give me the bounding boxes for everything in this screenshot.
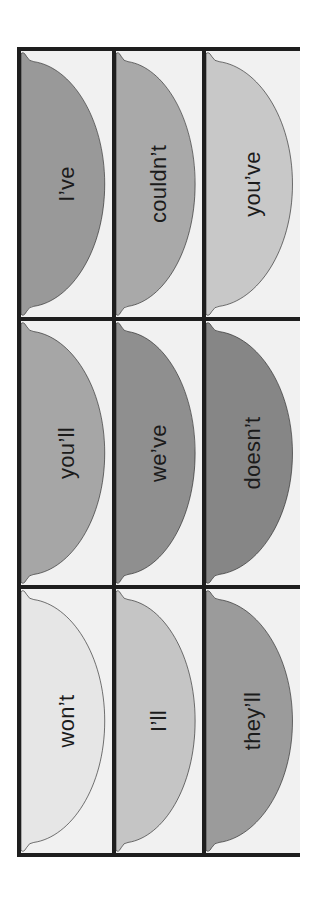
word-card: won’t xyxy=(21,589,112,853)
word-card: I’ve xyxy=(21,51,112,317)
word-card: I’ll xyxy=(116,589,202,853)
card-word: they’ll xyxy=(240,692,266,750)
word-card: couldn’t xyxy=(116,51,202,317)
word-card: we’ve xyxy=(116,321,202,585)
word-card: doesn’t xyxy=(206,321,300,585)
card-word: you’ll xyxy=(54,427,80,479)
card-word: I’ve xyxy=(54,166,80,201)
word-card: you’ll xyxy=(21,321,112,585)
card-word: we’ve xyxy=(146,424,172,482)
card-word: couldn’t xyxy=(146,145,172,223)
word-card: they’ll xyxy=(206,589,300,853)
card-word: doesn’t xyxy=(240,416,266,489)
card-sheet-frame: I’ve couldn’t you’ve you’ll we’ve doesn’… xyxy=(17,47,300,857)
card-word: you’ve xyxy=(240,151,266,216)
card-grid: I’ve couldn’t you’ve you’ll we’ve doesn’… xyxy=(21,51,296,853)
card-word: won’t xyxy=(54,695,80,748)
card-word: I’ll xyxy=(146,710,172,732)
word-card: you’ve xyxy=(206,51,300,317)
